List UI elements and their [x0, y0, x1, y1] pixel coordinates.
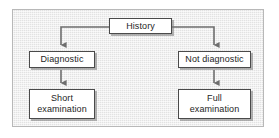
edge-history-to-diagnostic — [61, 27, 109, 45]
node-short-examination: Short examination — [29, 89, 95, 119]
node-history: History — [109, 18, 172, 34]
flowchart-figure: History Diagnostic Not diagnostic Short … — [0, 0, 279, 138]
edge-history-to-not-diagnostic — [172, 27, 214, 45]
node-not-diagnostic: Not diagnostic — [178, 51, 251, 68]
node-full-examination: Full examination — [178, 89, 251, 119]
node-diagnostic: Diagnostic — [29, 51, 95, 68]
